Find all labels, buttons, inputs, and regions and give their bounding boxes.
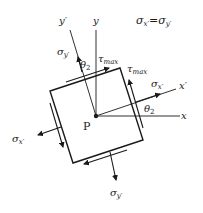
stress-element-diagram: σx′=σy′ y y′ x x′ P θ2 θ2 τmax τmax σy′ …: [0, 0, 203, 213]
theta-right-label: θ2: [144, 103, 155, 116]
tau-max-right-label: τmax: [127, 63, 147, 76]
sigma-x-prime-right-arrow: [136, 94, 160, 102]
origin-point: [94, 114, 98, 118]
x-axis-label: x: [181, 110, 187, 121]
sigma-y-prime-bottom-arrow: [110, 152, 116, 180]
tau-max-top-label: τmax: [98, 53, 118, 66]
equation-sigma-x: σx′=σy′: [136, 14, 172, 28]
y-prime-axis-label: y′: [58, 15, 68, 26]
sigma-y-prime-top-label: σy′: [57, 46, 70, 59]
sigma-y-prime-bottom-label: σy′: [110, 187, 123, 200]
origin-label: P: [83, 120, 91, 133]
sigma-x-prime-left-label: σx′: [12, 133, 25, 146]
sigma-x-prime-right-label: σx′: [151, 78, 164, 91]
y-axis-label: y: [92, 15, 99, 26]
x-prime-axis-label: x′: [179, 80, 188, 91]
